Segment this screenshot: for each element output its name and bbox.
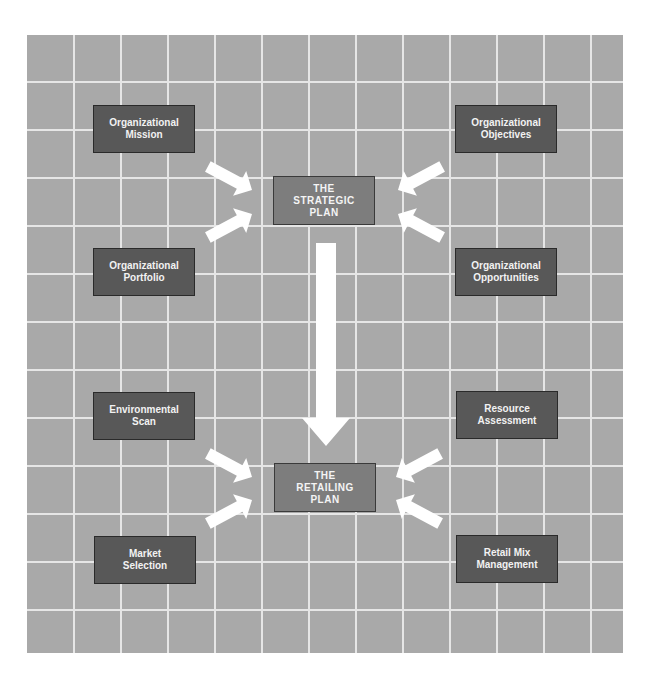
- box-label-line1: Environmental: [109, 404, 178, 416]
- box-label-line2: Mission: [125, 129, 162, 141]
- plan-label-line3: PLAN: [310, 494, 339, 506]
- plan-label-line2: STRATEGIC: [293, 195, 355, 207]
- box-resource-assessment: Resource Assessment: [456, 391, 558, 439]
- box-organizational-mission: Organizational Mission: [93, 105, 195, 153]
- plan-label-line3: PLAN: [309, 207, 338, 219]
- plan-label-line1: THE: [314, 470, 336, 482]
- box-label-line1: Market: [129, 548, 161, 560]
- box-label-line2: Selection: [123, 560, 167, 572]
- box-strategic-plan: THE STRATEGIC PLAN: [273, 176, 375, 225]
- plan-label-line1: THE: [313, 183, 335, 195]
- box-label-line2: Portfolio: [123, 272, 164, 284]
- box-organizational-portfolio: Organizational Portfolio: [93, 248, 195, 296]
- box-label-line1: Organizational: [471, 117, 540, 129]
- box-label-line1: Organizational: [109, 260, 178, 272]
- box-label-line2: Objectives: [481, 129, 532, 141]
- box-label-line1: Organizational: [471, 260, 540, 272]
- box-market-selection: Market Selection: [94, 536, 196, 584]
- box-organizational-objectives: Organizational Objectives: [455, 105, 557, 153]
- box-label-line1: Retail Mix: [484, 547, 531, 559]
- box-retailing-plan: THE RETAILING PLAN: [274, 463, 376, 512]
- plan-label-line2: RETAILING: [296, 482, 354, 494]
- box-label-line2: Assessment: [478, 415, 537, 427]
- box-label-line1: Organizational: [109, 117, 178, 129]
- box-label-line2: Management: [476, 559, 537, 571]
- box-organizational-opportunities: Organizational Opportunities: [455, 248, 557, 296]
- box-label-line1: Resource: [484, 403, 530, 415]
- box-label-line2: Opportunities: [473, 272, 539, 284]
- box-environmental-scan: Environmental Scan: [93, 392, 195, 440]
- box-retail-mix-management: Retail Mix Management: [456, 535, 558, 583]
- box-label-line2: Scan: [132, 416, 156, 428]
